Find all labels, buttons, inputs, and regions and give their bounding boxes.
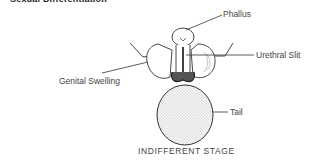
figure-caption: INDIFFERENT STAGE — [138, 146, 235, 156]
label-genital-swelling: Genital Swelling — [59, 76, 120, 86]
label-tail: Tail — [230, 107, 243, 117]
anatomy-illustration — [0, 0, 318, 162]
anal-fold — [172, 72, 195, 82]
label-urethral-slit: Urethral Slit — [256, 50, 300, 60]
label-phallus: Phallus — [223, 9, 251, 19]
tail-shape — [157, 85, 213, 145]
